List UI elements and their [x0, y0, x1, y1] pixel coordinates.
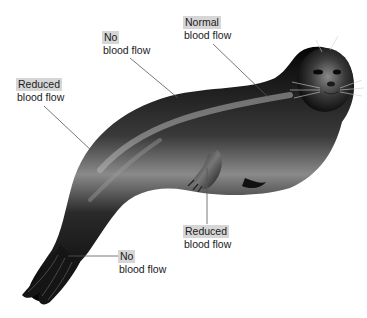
label-highlight: Normal — [183, 16, 221, 29]
label-text: blood flow — [102, 44, 150, 57]
label-highlight: Reduced — [183, 225, 229, 238]
label-text: blood flow — [183, 238, 231, 251]
label-no-blood-flow-back: No blood flow — [102, 31, 150, 57]
label-reduced-blood-flow-flipper: Reduced blood flow — [183, 225, 231, 251]
label-text: blood flow — [16, 91, 64, 104]
label-highlight: Reduced — [16, 78, 62, 91]
seal-head — [297, 48, 353, 112]
label-text: blood flow — [118, 263, 166, 276]
label-normal-blood-flow-neck: Normal blood flow — [183, 16, 231, 42]
label-no-blood-flow-tail: No blood flow — [118, 250, 166, 276]
seal-illustration — [0, 0, 367, 318]
label-text: blood flow — [183, 29, 231, 42]
label-reduced-blood-flow-side: Reduced blood flow — [16, 78, 64, 104]
label-highlight: No — [102, 31, 119, 44]
label-highlight: No — [118, 250, 135, 263]
